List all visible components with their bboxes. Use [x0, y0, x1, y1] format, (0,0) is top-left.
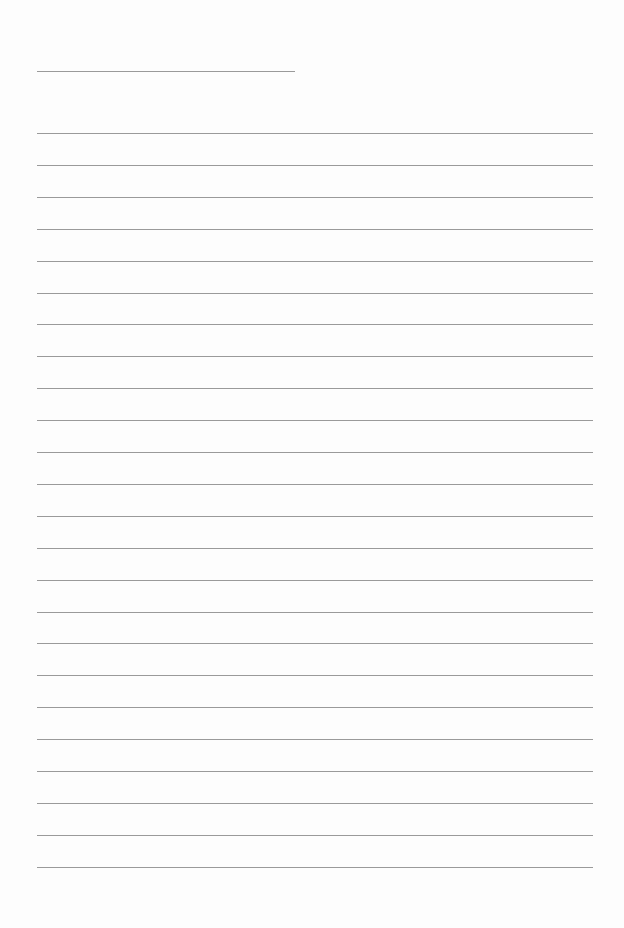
- ruled-line: [37, 484, 593, 485]
- ruled-line: [37, 548, 593, 549]
- ruled-line: [37, 580, 593, 581]
- ruled-line: [37, 388, 593, 389]
- ruled-line: [37, 229, 593, 230]
- ruled-line: [37, 771, 593, 772]
- ruled-line: [37, 420, 593, 421]
- ruled-line: [37, 324, 593, 325]
- ruled-line: [37, 452, 593, 453]
- ruled-line: [37, 643, 593, 644]
- ruled-line: [37, 739, 593, 740]
- ruled-line: [37, 165, 593, 166]
- ruled-line: [37, 867, 593, 868]
- ruled-line: [37, 261, 593, 262]
- ruled-line: [37, 133, 593, 134]
- ruled-line: [37, 197, 593, 198]
- ruled-line: [37, 803, 593, 804]
- ruled-line: [37, 707, 593, 708]
- ruled-line: [37, 835, 593, 836]
- ruled-line: [37, 516, 593, 517]
- ruled-line: [37, 675, 593, 676]
- ruled-line: [37, 612, 593, 613]
- ruled-line: [37, 356, 593, 357]
- ruled-line: [37, 293, 593, 294]
- title-line: [37, 71, 295, 72]
